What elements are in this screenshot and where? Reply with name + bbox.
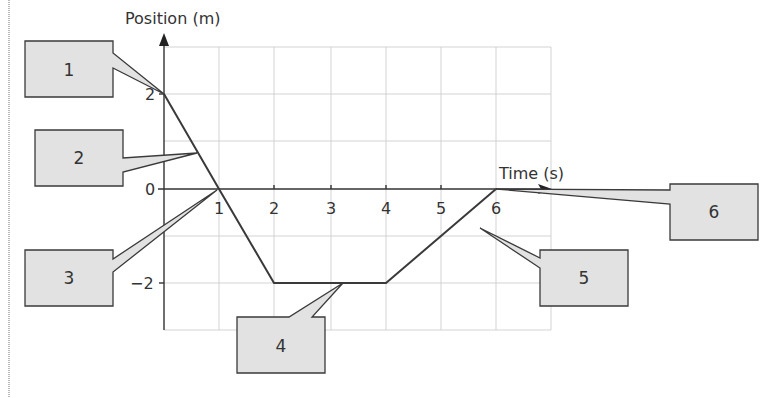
callout-box-1 xyxy=(25,41,164,97)
x-tick-1: 1 xyxy=(214,199,224,218)
x-axis-label: Time (s) xyxy=(498,164,564,183)
callout-box-2 xyxy=(35,130,197,186)
x-tick-3: 3 xyxy=(326,199,336,218)
x-tick-4: 4 xyxy=(381,199,391,218)
y-axis-label: Position (m) xyxy=(125,9,220,28)
y-tick-neg2: −2 xyxy=(130,274,154,293)
callout-label-1: 1 xyxy=(64,60,75,80)
callout-label-3: 3 xyxy=(64,268,75,288)
callout-label-6: 6 xyxy=(709,202,720,222)
x-tick-5: 5 xyxy=(436,199,446,218)
y-tick-0: 0 xyxy=(145,180,155,199)
callout-label-2: 2 xyxy=(74,148,85,168)
callout-label-4: 4 xyxy=(276,336,287,356)
callout-box-3 xyxy=(25,190,217,306)
position-time-graph: Position (m) Time (s) 2 0 −2 1 2 3 4 5 6… xyxy=(0,0,769,398)
y-axis-arrow-icon xyxy=(159,33,169,46)
callout-label-5: 5 xyxy=(579,268,590,288)
x-tick-6: 6 xyxy=(491,199,501,218)
x-tick-2: 2 xyxy=(269,199,279,218)
callout-box-4 xyxy=(237,283,343,373)
callout-box-5 xyxy=(480,228,628,306)
